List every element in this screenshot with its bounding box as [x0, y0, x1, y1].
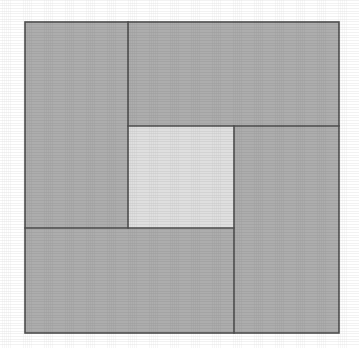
figure-canvas	[0, 0, 359, 348]
right-rectangle	[234, 126, 339, 333]
pinwheel-square-figure	[0, 0, 359, 348]
top-rectangle	[128, 22, 339, 126]
bottom-rectangle	[25, 228, 234, 333]
inner-square	[128, 126, 234, 228]
left-rectangle	[25, 22, 128, 228]
